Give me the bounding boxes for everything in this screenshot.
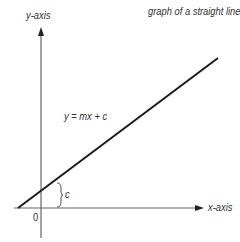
equation-label: y = mx + c [64, 110, 107, 122]
y-axis-arrowhead [38, 27, 44, 36]
origin-label: 0 [33, 211, 38, 223]
intercept-brace [57, 183, 63, 207]
y-axis-label: y-axis [26, 9, 50, 21]
intercept-label: c [65, 188, 70, 200]
diagram-title: graph of a straight line [148, 5, 240, 17]
x-axis-arrowhead [195, 205, 204, 211]
straight-line [18, 58, 218, 208]
diagram-canvas [0, 0, 240, 242]
x-axis-label: x-axis [208, 201, 232, 213]
